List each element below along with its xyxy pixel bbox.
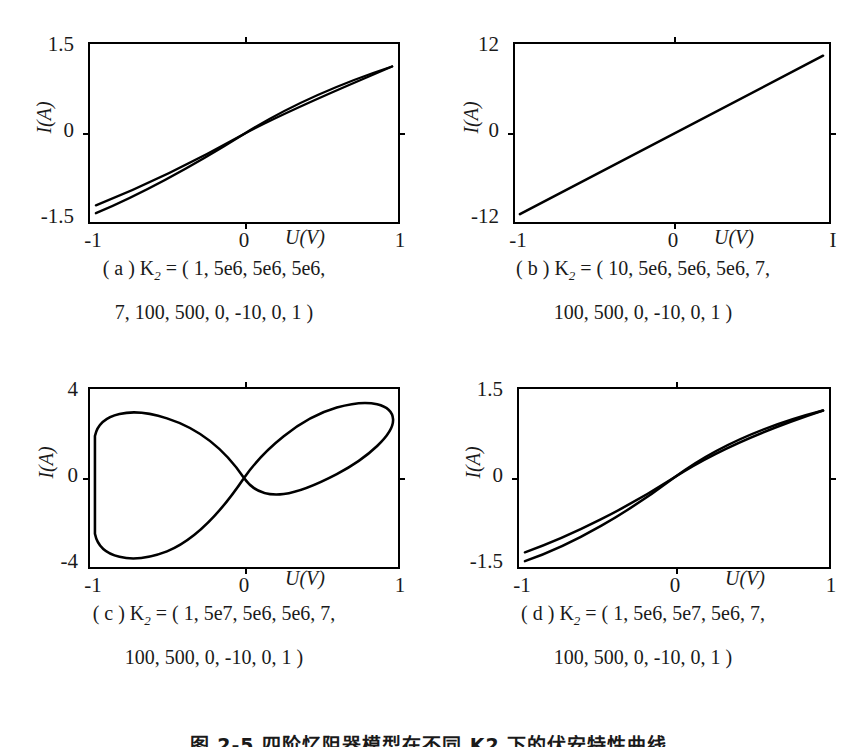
panel-c-y-tick-labels: 4 0 -4 [30,359,82,559]
panel-a: I(A) 1.5 0 -1.5 -1 0 1 U(V) [0,14,428,359]
panel-a-xtick-mid: 0 [239,230,250,251]
panel-b-x-axis-name: U(V) [714,226,754,249]
panel-d-ytick-max: 1.5 [477,379,503,400]
panel-c: I(A) 4 0 -4 -1 0 1 U(V) ( c ) K2 = ( 1, [0,359,428,704]
panel-c-xtick-min: -1 [84,575,102,596]
panel-b-ytick-min: -12 [471,206,499,227]
panel-b-tick-y0-r [829,133,836,135]
panel-b-caption-values: = ( 10, 5e6, 5e6, 5e6, 7, [575,257,770,279]
panel-a-y-tick-labels: 1.5 0 -1.5 [26,14,78,214]
panel-d-caption-line1: ( d ) K2 = ( 1, 5e6, 5e7, 5e6, 7, [429,603,857,627]
panel-d-tick-x0-t [676,382,678,389]
panel-c-xtick-max: 1 [395,575,406,596]
panel-c-figure: I(A) 4 0 -4 -1 0 1 U(V) [0,359,428,574]
panel-c-caption-line1: ( c ) K2 = ( 1, 5e7, 5e6, 5e6, 7, [0,603,428,627]
panel-a-tick-y0-r [398,133,405,135]
panel-a-caption-line2: 7, 100, 500, 0, -10, 0, 1 ) [0,302,428,322]
panel-c-xtick-mid: 0 [239,575,250,596]
panel-d-tick-y0 [512,478,519,480]
panel-b-ytick-max: 12 [478,34,499,55]
panel-c-ytick-max: 4 [68,379,79,400]
panel-d-figure: I(A) 1.5 0 -1.5 -1 0 1 U(V) [429,359,857,574]
panel-a-xtick-min: -1 [84,230,102,251]
panel-d-caption-label: ( d ) K [521,602,574,624]
panel-c-tick-y0 [83,478,90,480]
panel-b: I(A) 12 0 -12 -1 0 I U(V) ( b ) K2 = ( [429,14,857,359]
panel-d-ytick-min: -1.5 [470,551,503,572]
panel-a-curve [90,44,398,222]
panel-b-caption-line1: ( b ) K2 = ( 10, 5e6, 5e6, 5e6, 7, [429,258,857,282]
panel-b-xtick-min: -1 [509,230,527,251]
panel-c-ytick-min: -4 [61,551,79,572]
panel-d-caption-line2: 100, 500, 0, -10, 0, 1 ) [429,647,857,667]
panel-a-tick-y0 [83,133,90,135]
panel-a-plot-area [88,42,400,224]
panel-a-caption-label: ( a ) K [103,257,155,279]
panel-d-xtick-max: 1 [826,575,837,596]
panel-b-tick-y0 [508,133,515,135]
panel-a-figure: I(A) 1.5 0 -1.5 -1 0 1 U(V) [0,14,428,229]
panel-c-tick-y0-r [398,478,405,480]
panel-d-ytick-mid: 0 [493,465,504,486]
panel-d-y-tick-labels: 1.5 0 -1.5 [455,359,507,559]
panel-d-tick-y0-r [829,478,836,480]
panel-c-tick-x0-t [245,382,247,389]
panel-b-plot-area [513,42,831,224]
panel-c-plot-area [88,387,400,569]
panel-a-ytick-min: -1.5 [41,206,74,227]
figure-title: 图 2-5 四阶忆阻器模型在不同 K2 下的伏安特性曲线 [0,721,857,747]
panel-d: I(A) 1.5 0 -1.5 -1 0 1 U(V) [429,359,857,704]
panel-c-x-axis-name: U(V) [285,567,325,590]
panel-d-caption-values: = ( 1, 5e6, 5e7, 5e6, 7, [580,602,765,624]
panel-a-ytick-max: 1.5 [48,34,74,55]
panel-a-caption-line1: ( a ) K2 = ( 1, 5e6, 5e6, 5e6, [0,258,428,282]
panel-a-xtick-max: 1 [395,230,406,251]
figure-title-text: 图 2-5 四阶忆阻器模型在不同 K2 下的伏安特性曲线 [0,730,857,747]
panel-a-caption-values: = ( 1, 5e6, 5e6, 5e6, [161,257,326,279]
panel-a-ytick-mid: 0 [64,120,75,141]
panel-b-caption-label: ( b ) K [516,257,569,279]
panel-d-xtick-min: -1 [513,575,531,596]
panel-b-xtick-max: I [830,230,837,251]
panel-d-curve [519,389,829,567]
figure-panel-grid: I(A) 1.5 0 -1.5 -1 0 1 U(V) [0,14,857,704]
panel-c-caption-label: ( c ) K [93,602,145,624]
panel-b-xtick-mid: 0 [668,230,679,251]
panel-b-y-tick-labels: 12 0 -12 [451,14,503,214]
panel-c-caption-line2: 100, 500, 0, -10, 0, 1 ) [0,647,428,667]
panel-c-ytick-mid: 0 [68,465,79,486]
panel-c-caption-values: = ( 1, 5e7, 5e6, 5e6, 7, [151,602,336,624]
panel-d-x-axis-name: U(V) [725,567,765,590]
panel-d-plot-area [517,387,831,569]
clipped-header-line [0,0,857,10]
panel-a-x-axis-name: U(V) [285,226,325,249]
panel-b-ytick-mid: 0 [489,120,500,141]
panel-b-caption-line2: 100, 500, 0, -10, 0, 1 ) [429,302,857,322]
panel-c-curve [90,389,398,567]
panel-a-tick-x0-t [245,37,247,44]
panel-b-figure: I(A) 12 0 -12 -1 0 I U(V) [429,14,857,229]
panel-b-curve [515,44,829,222]
panel-b-tick-x0-t [674,37,676,44]
panel-d-xtick-mid: 0 [670,575,681,596]
